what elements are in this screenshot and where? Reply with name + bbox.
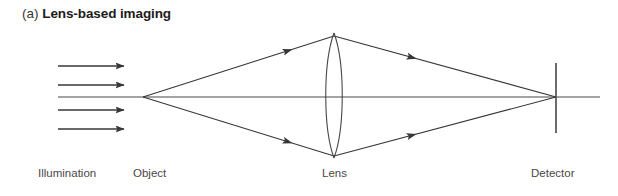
object-to-lens-rays [143, 36, 334, 156]
lens-label: Lens [322, 166, 347, 180]
lens-left-surface [326, 33, 334, 158]
figure-root: (a) Lens-based imaging [0, 0, 618, 196]
lens-right-surface [334, 33, 342, 158]
object-label: Object [133, 166, 166, 180]
illumination-label: Illumination [38, 166, 96, 180]
biconvex-lens-icon [326, 33, 343, 158]
ray-lower-diverging [143, 97, 334, 156]
lens-to-detector-rays [334, 36, 556, 156]
ray-lower-converging [334, 97, 556, 156]
ray-upper-converging [334, 36, 556, 97]
detector-label: Detector [531, 166, 574, 180]
ray-upper-diverging [143, 36, 334, 97]
